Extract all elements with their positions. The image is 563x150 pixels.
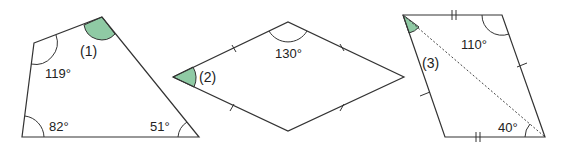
- angle-arc-40: [525, 124, 530, 137]
- figure-3: (3) 110° 40°: [403, 10, 545, 142]
- angle-arc-130: [269, 31, 307, 42]
- figure-label-1: (1): [80, 43, 97, 59]
- angle-value-110: 110°: [461, 37, 487, 52]
- figure-label-3: (3): [422, 55, 439, 71]
- angle-arc-82: [25, 116, 44, 137]
- angle-value-51: 51°: [150, 119, 170, 134]
- tick-mark: [420, 92, 430, 96]
- shaded-angle-1: [84, 17, 115, 40]
- angle-value-82: 82°: [49, 119, 69, 134]
- angle-arc-51: [178, 122, 187, 137]
- shaded-angle-2: [173, 67, 196, 87]
- figure-2: (2) 130°: [173, 22, 404, 131]
- angle-diagram: (1) 119° 82° 51° (2) 130° (3) 110° 40°: [0, 0, 563, 150]
- tick-mark: [340, 104, 344, 111]
- figure-label-2: (2): [199, 69, 216, 85]
- angle-value-119: 119°: [45, 66, 71, 81]
- angle-value-130: 130°: [275, 46, 302, 61]
- shaded-angle-3: [403, 15, 419, 33]
- angle-value-40: 40°: [498, 120, 518, 135]
